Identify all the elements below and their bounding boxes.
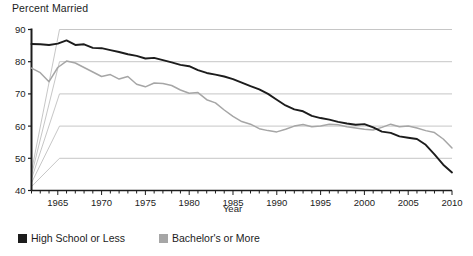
gridlines <box>32 30 453 191</box>
gridline-90 <box>32 30 453 172</box>
series-line-bachelor-s-or-more <box>32 61 453 148</box>
legend-label-bachelors-or-more: Bachelor's or More <box>172 232 260 244</box>
y-tick-label-40: 40 <box>15 185 26 196</box>
chart-container: Percent Married 405060708090 19651970197… <box>0 0 473 256</box>
gridline-50 <box>32 158 453 186</box>
y-tick-label-60: 60 <box>15 121 26 132</box>
legend-label-high-school-or-less: High School or Less <box>31 232 125 244</box>
y-tick-label-90: 90 <box>15 24 26 35</box>
axes <box>28 29 452 196</box>
legend-item-high-school-or-less: High School or Less <box>18 232 125 244</box>
legend-item-bachelors-or-more: Bachelor's or More <box>159 232 260 244</box>
y-tick-label-80: 80 <box>15 56 26 67</box>
legend-swatch-high-school-or-less <box>18 234 27 243</box>
y-axis-tick-labels: 405060708090 <box>15 24 26 196</box>
series-line-high-school-or-less <box>32 40 453 172</box>
data-series <box>32 40 453 172</box>
chart-plot-area: 405060708090 196519701975198019851990199… <box>0 0 473 256</box>
chart-legend: High School or Less Bachelor's or More <box>18 228 458 248</box>
y-tick-label-50: 50 <box>15 153 26 164</box>
gridline-70 <box>32 94 453 179</box>
gridline-60 <box>32 126 453 183</box>
legend-swatch-bachelors-or-more <box>159 234 168 243</box>
x-axis-title-text: Year <box>223 203 242 214</box>
y-tick-label-70: 70 <box>15 88 26 99</box>
x-axis-title: Year <box>0 203 473 214</box>
